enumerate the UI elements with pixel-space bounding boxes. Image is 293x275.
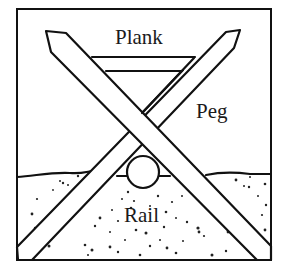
rail-circle	[127, 156, 159, 188]
label-peg: Peg	[196, 99, 228, 123]
label-rail: Rail	[124, 203, 159, 227]
label-plank: Plank	[115, 25, 163, 49]
rail-peg-plank-diagram: Plank Peg Rail	[0, 0, 293, 275]
